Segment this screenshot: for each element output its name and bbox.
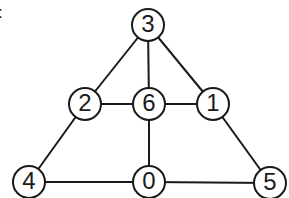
edge-0-5: [149, 182, 270, 183]
node-label: 4: [22, 167, 35, 194]
node-label: 6: [142, 89, 155, 116]
node-0: 0: [133, 166, 165, 198]
node-6: 6: [133, 88, 165, 120]
node-label: 5: [263, 168, 276, 195]
node-3: 3: [132, 9, 164, 41]
node-label: 1: [206, 89, 219, 116]
graph-nodes: 3261405: [13, 9, 286, 198]
node-5: 5: [254, 167, 286, 198]
graph-diagram: 3261405: [0, 0, 289, 198]
node-label: 3: [141, 10, 154, 37]
node-label: 0: [142, 167, 155, 194]
node-4: 4: [13, 166, 45, 198]
node-2: 2: [69, 88, 101, 120]
node-label: 2: [78, 89, 91, 116]
node-1: 1: [197, 88, 229, 120]
